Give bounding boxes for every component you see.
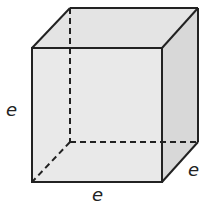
height-label: e (6, 101, 17, 119)
width-label: e (92, 186, 103, 204)
depth-label: e (188, 161, 199, 179)
cube-diagram (0, 0, 211, 209)
front-face (32, 48, 162, 182)
